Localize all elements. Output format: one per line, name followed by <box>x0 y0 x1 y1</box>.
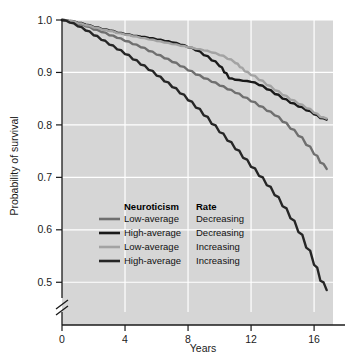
y-tick-label: 0.8 <box>37 119 52 131</box>
x-axis-title: Years <box>190 342 216 354</box>
legend-header-neuroticism: Neuroticism <box>124 201 179 212</box>
y-tick-label: 0.6 <box>37 223 52 235</box>
plot-area-background <box>62 20 333 312</box>
chart-canvas: 0.50.60.70.80.91.0 0481216 Probability o… <box>0 0 360 362</box>
legend-label-neuroticism-2: Low-average <box>124 241 179 252</box>
legend-header-rate: Rate <box>196 201 217 212</box>
legend-label-rate-1: Decreasing <box>196 227 244 238</box>
legend-label-neuroticism-1: High-average <box>124 227 181 238</box>
y-axis-title: Probability of survival <box>8 116 20 215</box>
legend-label-neuroticism-3: High-average <box>124 255 181 266</box>
legend-label-rate-0: Decreasing <box>196 213 244 224</box>
legend-label-neuroticism-0: Low-average <box>124 213 179 224</box>
x-tick-label: 0 <box>59 333 65 345</box>
legend-label-rate-3: Increasing <box>196 255 240 266</box>
x-tick-label: 12 <box>245 333 257 345</box>
y-tick-label: 0.7 <box>37 171 52 183</box>
y-tick-label: 0.9 <box>37 66 52 78</box>
plot-area-background-lower <box>62 298 333 325</box>
x-tick-label: 16 <box>308 333 320 345</box>
y-tick-label: 0.5 <box>37 276 52 288</box>
survival-chart-figure: 0.50.60.70.80.91.0 0481216 Probability o… <box>0 0 360 362</box>
x-tick-label: 4 <box>122 333 128 345</box>
y-tick-label: 1.0 <box>37 14 52 26</box>
legend-label-rate-2: Increasing <box>196 241 240 252</box>
